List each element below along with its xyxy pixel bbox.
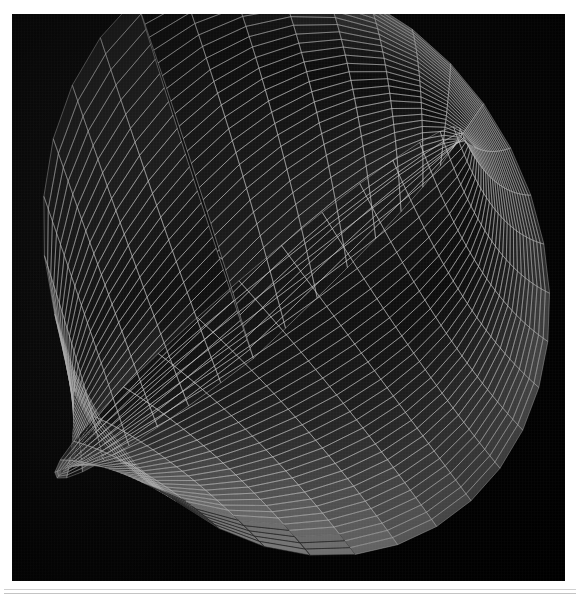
footer-rule-top [4,589,576,590]
surface-face [510,226,514,268]
surface-plot-canvas[interactable] [12,14,565,581]
figure-root: 3D Surface Mesh Plot [0,0,580,602]
surface-face [291,17,338,26]
surface-face [217,499,266,505]
surface-plot-panel[interactable] [12,14,565,581]
footer-rule-bottom [4,593,576,594]
